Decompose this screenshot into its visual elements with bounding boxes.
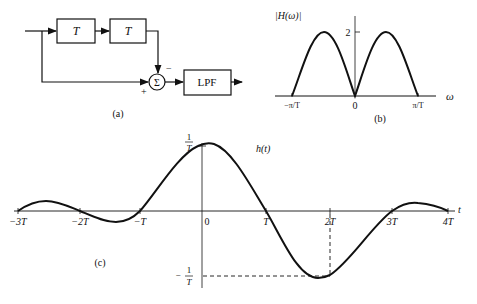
delay-label-2: T	[125, 24, 133, 38]
plus-sign: +	[141, 86, 147, 97]
x-tick-4T: 4T	[443, 216, 455, 227]
delayed-path	[146, 31, 158, 73]
caption-b: (b)	[374, 113, 386, 125]
curve-label: h(t)	[256, 143, 271, 155]
x-tick-pi: π/T	[412, 101, 423, 110]
minus-sign: −	[166, 63, 172, 74]
y-top-numerator: 1	[187, 132, 192, 142]
caption-c: (c)	[94, 257, 105, 269]
impulse-curve	[18, 143, 448, 278]
magnitude-response-plot	[275, 16, 436, 97]
omega-label: ω	[446, 90, 454, 102]
x-tick-neg2T: −2T	[71, 216, 90, 227]
x-tick-neg3T: −3T	[9, 216, 28, 227]
magnitude-label: |H(ω)|	[275, 10, 301, 22]
x-tick-2T: 2T	[325, 216, 337, 227]
delay-label-1: T	[73, 24, 81, 38]
caption-a: (a)	[112, 108, 123, 120]
time-label: t	[458, 204, 461, 215]
y-top-denominator: T	[186, 143, 192, 153]
filter-label: LPF	[198, 76, 217, 88]
y-bottom-numerator: 1	[187, 265, 192, 275]
y-bottom-sign: −	[175, 270, 180, 280]
x-tick-0: 0	[205, 216, 210, 227]
x-tick-neg-pi: −π/T	[284, 101, 300, 110]
x-tick-negT: −T	[134, 216, 148, 227]
sum-symbol: Σ	[154, 77, 160, 88]
y-tick-label-2: 2	[346, 27, 351, 38]
y-bottom-denominator: T	[186, 277, 192, 287]
x-tick-zero: 0	[353, 100, 358, 111]
x-tick-3T: 3T	[386, 216, 399, 227]
figure: T T Σ − + LPF (a) |H(ω)| 2 ω −π/T 0 π/T …	[0, 0, 477, 304]
